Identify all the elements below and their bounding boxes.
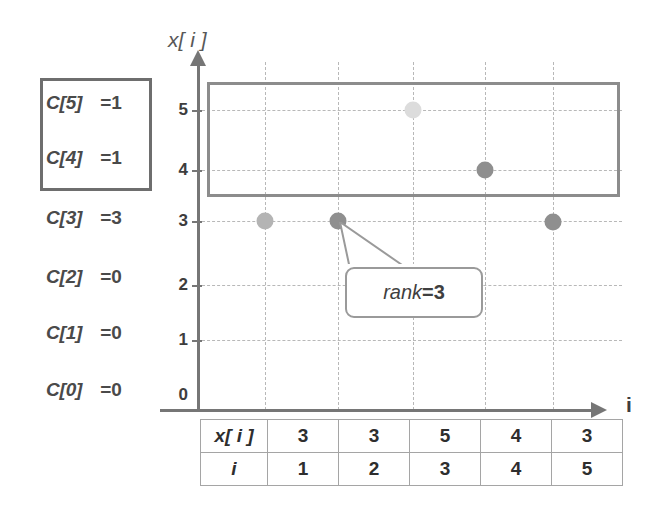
counter-entry-c2: C[2] =0: [46, 262, 156, 292]
rank-callout: rank=3: [345, 267, 483, 318]
y-axis-line: [197, 62, 200, 410]
table-row-values: x[ i ] 3 3 5 4 3: [201, 420, 623, 453]
counting-sort-diagram: C[5] =1 C[4] =1 C[3] =3 C[2] =0 C[1] =0 …: [0, 0, 659, 519]
rank-callout-label: rank=3: [383, 281, 445, 304]
table-cell-x-1: 3: [268, 420, 339, 453]
tickmark-y5: [192, 110, 202, 112]
ticklabel-y4: 4: [166, 160, 188, 180]
counter-entry-c3: C[3] =3: [46, 203, 156, 233]
counter-value-c1: =0: [100, 322, 122, 344]
tickmark-y4: [192, 170, 202, 172]
ticklabel-y2: 2: [166, 275, 188, 295]
tickmark-y2: [192, 285, 202, 287]
table-cell-i-2: 2: [339, 453, 410, 486]
ticklabel-y0: 0: [166, 385, 188, 405]
table-cell-i-4: 4: [481, 453, 552, 486]
table-cell-i-1: 1: [268, 453, 339, 486]
data-point-i4: [477, 162, 494, 179]
table-header-x: x[ i ]: [201, 420, 268, 453]
counter-value-c5: =1: [100, 92, 122, 114]
counter-name-c0: C[0]: [46, 379, 82, 401]
counter-name-c2: C[2]: [46, 266, 82, 288]
table-cell-i-5: 5: [552, 453, 623, 486]
table-cell-x-3: 5: [410, 420, 481, 453]
tickmark-y3: [192, 221, 202, 223]
tickmark-y1: [192, 340, 202, 342]
table-cell-x-2: 3: [339, 420, 410, 453]
ticklabel-y1: 1: [166, 330, 188, 350]
data-point-i5: [545, 214, 562, 231]
data-point-i1: [257, 213, 274, 230]
table-cell-x-4: 4: [481, 420, 552, 453]
table-header-i: i: [201, 453, 268, 486]
y-axis-arrow: [190, 50, 206, 66]
table-row-indices: i 1 2 3 4 5: [201, 453, 623, 486]
gridline-y1: [197, 340, 622, 341]
counter-entry-c5: C[5] =1: [46, 88, 156, 118]
table-cell-x-5: 3: [552, 420, 623, 453]
counter-name-c4: C[4]: [46, 147, 82, 169]
counter-name-c3: C[3]: [46, 207, 82, 229]
values-table: x[ i ] 3 3 5 4 3 i 1 2 3 4 5: [200, 419, 623, 486]
counter-value-c0: =0: [100, 379, 122, 401]
data-point-i2: [330, 213, 347, 230]
ticklabel-y5: 5: [166, 100, 188, 120]
ticklabel-y3: 3: [166, 211, 188, 231]
counter-name-c5: C[5]: [46, 92, 82, 114]
counter-value-c3: =3: [100, 207, 122, 229]
counter-entry-c1: C[1] =0: [46, 318, 156, 348]
y-axis-label-text: x[ i ]: [168, 28, 207, 51]
counter-value-c2: =0: [100, 266, 122, 288]
highlight-rectangle: [207, 82, 620, 197]
y-axis-label: x[ i ]: [168, 28, 207, 52]
x-axis-line: [160, 409, 594, 412]
counter-name-c1: C[1]: [46, 322, 82, 344]
counter-value-c4: =1: [100, 147, 122, 169]
x-axis-arrow: [591, 402, 607, 418]
counter-entry-c4: C[4] =1: [46, 143, 156, 173]
counter-entry-c0: C[0] =0: [46, 375, 156, 405]
table-cell-i-3: 3: [410, 453, 481, 486]
data-point-i3: [405, 102, 422, 119]
x-axis-label: i: [626, 393, 632, 417]
